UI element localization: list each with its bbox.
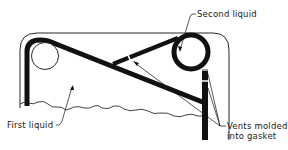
first-liquid-arrowhead [70,85,74,90]
vents-label-line2: into gasket [227,131,276,141]
liquid-surface-line [20,101,202,116]
second-liquid-tube [174,35,208,69]
first-liquid-tube [32,43,59,70]
first-liquid-label: First liquid [7,120,53,130]
gasket-right-bar [202,69,208,140]
second-liquid-label: Second liquid [197,9,257,19]
gasket-upper-branch [113,38,178,64]
vents-label-line1: Vents molded [227,121,288,131]
vents-leader-3 [208,88,220,126]
first-liquid-leader [56,87,72,125]
